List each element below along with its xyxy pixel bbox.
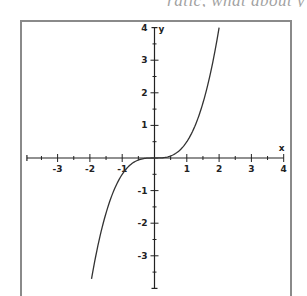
y-axis-label: y xyxy=(159,24,165,34)
y-tick-label: -3 xyxy=(138,251,148,261)
x-tick-label: 3 xyxy=(248,164,254,174)
function-curve xyxy=(92,28,220,279)
function-plot: -3-2-11234-3-2-11234 x y xyxy=(0,0,307,296)
y-tick-label: -2 xyxy=(138,218,148,228)
x-tick-label: 1 xyxy=(184,164,190,174)
y-tick-label: 3 xyxy=(141,55,147,65)
x-tick-label: 2 xyxy=(216,164,222,174)
y-tick-label: 4 xyxy=(141,23,147,33)
tick-labels: -3-2-11234-3-2-11234 xyxy=(53,23,287,261)
x-tick-label: 4 xyxy=(281,164,287,174)
y-tick-label: -1 xyxy=(138,186,148,196)
x-tick-label: -3 xyxy=(53,164,63,174)
y-tick-label: 2 xyxy=(141,88,147,98)
x-tick-label: -2 xyxy=(85,164,95,174)
x-axis-label: x xyxy=(279,143,285,153)
y-tick-label: 1 xyxy=(141,120,147,130)
